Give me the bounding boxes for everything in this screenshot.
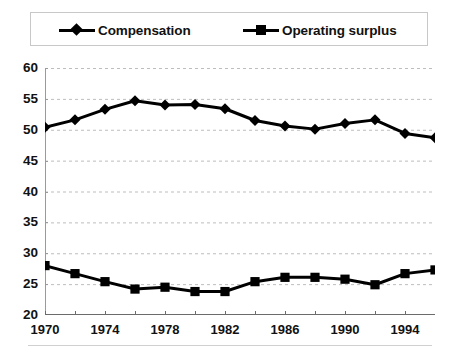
gridlines xyxy=(45,69,435,285)
data-point-marker xyxy=(70,269,79,278)
chart-legend: Compensation Operating surplus xyxy=(30,12,428,46)
series-compensation xyxy=(45,95,435,143)
y-tick-label: 35 xyxy=(8,215,38,229)
data-point-marker xyxy=(220,287,229,296)
data-point-marker xyxy=(370,114,381,125)
data-point-marker xyxy=(400,128,411,139)
y-tick-label: 50 xyxy=(8,123,38,137)
y-tick-label: 20 xyxy=(8,308,38,322)
square-marker-icon xyxy=(243,24,279,36)
x-axis-tick-labels: 1970197419781982198619901994 xyxy=(0,323,460,343)
y-tick-label: 40 xyxy=(8,185,38,199)
data-point-marker xyxy=(130,284,139,293)
bottom-divider xyxy=(28,345,432,346)
data-point-marker xyxy=(250,115,261,126)
y-tick-label: 55 xyxy=(8,92,38,106)
data-point-marker xyxy=(45,261,50,270)
data-point-marker xyxy=(430,132,436,143)
line-chart: Compensation Operating surplus 202530354… xyxy=(0,0,460,362)
data-point-marker xyxy=(160,100,171,111)
data-point-marker xyxy=(100,277,109,286)
x-tick-label: 1994 xyxy=(391,323,420,336)
data-point-marker xyxy=(370,280,379,289)
data-point-marker xyxy=(190,99,201,110)
x-tick-label: 1990 xyxy=(331,323,360,336)
x-tick-label: 1970 xyxy=(31,323,60,336)
x-tick-label: 1986 xyxy=(271,323,300,336)
y-tick-label: 60 xyxy=(8,61,38,75)
data-point-marker xyxy=(250,277,259,286)
legend-label-operating-surplus: Operating surplus xyxy=(282,23,397,38)
data-point-marker xyxy=(160,283,169,292)
data-point-marker xyxy=(220,103,231,114)
legend-item-compensation: Compensation xyxy=(59,13,191,47)
data-point-marker xyxy=(100,104,111,115)
x-tick-label: 1974 xyxy=(91,323,120,336)
x-tick-label: 1978 xyxy=(151,323,180,336)
y-tick-label: 25 xyxy=(8,277,38,291)
data-point-marker xyxy=(400,269,409,278)
data-point-marker xyxy=(130,95,141,106)
y-axis-tick-labels: 202530354045505560 xyxy=(4,68,38,315)
data-point-marker xyxy=(45,122,51,133)
data-point-marker xyxy=(430,265,435,274)
x-tick-label: 1982 xyxy=(211,323,240,336)
data-point-marker xyxy=(190,287,199,296)
legend-item-operating-surplus: Operating surplus xyxy=(243,13,397,47)
diamond-marker-icon xyxy=(59,24,95,36)
data-point-marker xyxy=(280,273,289,282)
y-tick-label: 45 xyxy=(8,154,38,168)
data-point-marker xyxy=(310,273,319,282)
data-series-layer xyxy=(45,95,435,296)
legend-label-compensation: Compensation xyxy=(98,23,191,38)
plot-area xyxy=(45,68,435,315)
data-point-marker xyxy=(310,124,321,135)
series-operating-surplus xyxy=(45,261,435,296)
data-point-marker xyxy=(70,114,81,125)
data-point-marker xyxy=(340,275,349,284)
data-point-marker xyxy=(340,118,351,129)
y-tick-label: 30 xyxy=(8,246,38,260)
